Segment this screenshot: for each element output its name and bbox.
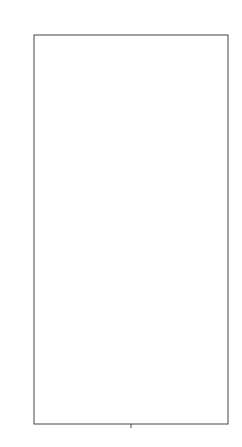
plot-area <box>34 35 228 424</box>
box-plot-chart <box>0 0 242 447</box>
